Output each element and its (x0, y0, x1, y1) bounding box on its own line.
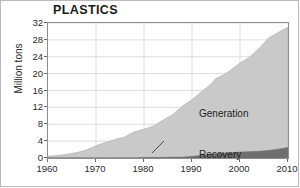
x-tick-label: 1960 (36, 163, 57, 174)
x-tick-mark (191, 159, 192, 162)
y-tick-mark (44, 157, 47, 158)
x-tick-label: 1990 (180, 163, 201, 174)
x-tick-mark (47, 159, 48, 162)
plot-frame (47, 22, 289, 159)
y-tick-mark (44, 22, 47, 23)
series-label-generation: Generation (199, 108, 248, 119)
x-tick-label: 2010 (276, 163, 297, 174)
chart-title: PLASTICS (53, 3, 118, 17)
y-tick-label: 20 (32, 67, 43, 78)
x-tick-label: 2000 (228, 163, 249, 174)
y-tick-label: 16 (32, 84, 43, 95)
x-tick-label: 1970 (84, 163, 105, 174)
y-tick-label: 4 (38, 135, 43, 146)
y-tick-mark (44, 106, 47, 107)
y-tick-label: 12 (32, 101, 43, 112)
area-chart-svg (48, 23, 288, 158)
y-axis-label: Million tons (13, 14, 24, 124)
y-tick-mark (44, 39, 47, 40)
y-tick-mark (44, 90, 47, 91)
x-tick-mark (287, 159, 288, 162)
y-tick-mark (44, 73, 47, 74)
series-label-recovery: Recovery (199, 149, 241, 160)
y-tick-label: 24 (32, 50, 43, 61)
plot-area: 048121620242832 196019701980199020002010… (47, 22, 289, 159)
y-tick-mark (44, 56, 47, 57)
x-tick-mark (143, 159, 144, 162)
y-tick-label: 8 (38, 118, 43, 129)
y-tick-label: 32 (32, 17, 43, 28)
x-tick-label: 1980 (132, 163, 153, 174)
y-tick-mark (44, 123, 47, 124)
chart-figure: PLASTICS Million tons 048121620242832 19… (0, 0, 299, 187)
x-tick-mark (95, 159, 96, 162)
y-tick-mark (44, 140, 47, 141)
y-tick-label: 0 (38, 152, 43, 163)
y-tick-label: 28 (32, 33, 43, 44)
